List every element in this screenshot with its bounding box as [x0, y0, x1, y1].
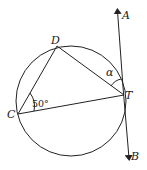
angle-arc-T — [111, 79, 121, 86]
angle-label-alpha: α — [106, 66, 114, 79]
label-C: C — [7, 108, 16, 121]
label-B: B — [130, 150, 139, 163]
chord-DT — [57, 46, 124, 95]
label-T: T — [125, 89, 134, 102]
geometry-diagram: A B D T C 50° α — [0, 0, 147, 170]
label-A: A — [121, 9, 130, 22]
angle-label-C: 50° — [32, 98, 49, 109]
label-D: D — [50, 34, 60, 47]
